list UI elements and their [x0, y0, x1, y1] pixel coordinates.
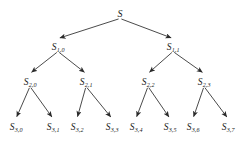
tree-edge — [194, 88, 204, 117]
node-subscript: 3,6 — [192, 127, 200, 133]
tree-node-n3_1: S3,1 — [47, 117, 59, 133]
tree-node-n3_4: S3,4 — [130, 117, 142, 133]
tree-edge — [121, 19, 171, 38]
tree-edge — [137, 88, 148, 117]
tree-edge — [149, 88, 169, 117]
node-subscript: 3,1 — [52, 127, 60, 133]
tree-edge — [17, 88, 30, 117]
tree-node-n3_2: S3,2 — [71, 117, 83, 133]
tree-node-n1_0: S1,0 — [52, 37, 64, 53]
node-subscript: 3,2 — [76, 127, 84, 133]
binary-tree-diagram: SS1,0S1,1S2,0S2,1S2,2S2,3S3,0S3,1S3,2S3,… — [0, 0, 243, 141]
tree-edges-layer — [0, 0, 243, 141]
tree-node-n3_7: S3,7 — [222, 117, 234, 133]
node-subscript: 3,7 — [227, 127, 235, 133]
tree-edge — [60, 19, 119, 38]
tree-edge — [174, 52, 202, 72]
node-subscript: 3,3 — [111, 127, 119, 133]
node-subscript: 2,3 — [203, 82, 211, 88]
node-subscript: 2,0 — [29, 82, 37, 88]
node-subscript: 3,4 — [135, 127, 143, 133]
tree-node-n3_5: S3,5 — [164, 117, 176, 133]
tree-edge — [150, 52, 172, 72]
edges-group — [17, 19, 227, 117]
tree-node-n2_0: S2,0 — [24, 72, 36, 88]
tree-edge — [78, 88, 86, 117]
tree-node-n3_3: S3,3 — [106, 117, 118, 133]
tree-node-n3_6: S3,6 — [187, 117, 199, 133]
tree-node-n2_3: S2,3 — [198, 72, 210, 88]
tree-node-n2_1: S2,1 — [80, 72, 92, 88]
tree-edge — [32, 52, 57, 72]
tree-edge — [205, 88, 227, 117]
tree-node-n2_2: S2,2 — [142, 72, 154, 88]
tree-edge — [87, 88, 111, 117]
tree-edge — [59, 52, 84, 72]
node-subscript: 3,5 — [169, 127, 177, 133]
node-subscript: 2,2 — [147, 82, 155, 88]
node-base-letter: S — [117, 8, 122, 19]
node-subscript: 1,1 — [172, 47, 180, 53]
tree-node-n3_0: S3,0 — [10, 117, 22, 133]
tree-node-n1_1: S1,1 — [167, 37, 179, 53]
tree-node-root: S — [117, 4, 122, 20]
tree-edge — [31, 88, 52, 117]
node-subscript: 1,0 — [57, 47, 65, 53]
node-subscript: 2,1 — [85, 82, 93, 88]
node-subscript: 3,0 — [15, 127, 23, 133]
